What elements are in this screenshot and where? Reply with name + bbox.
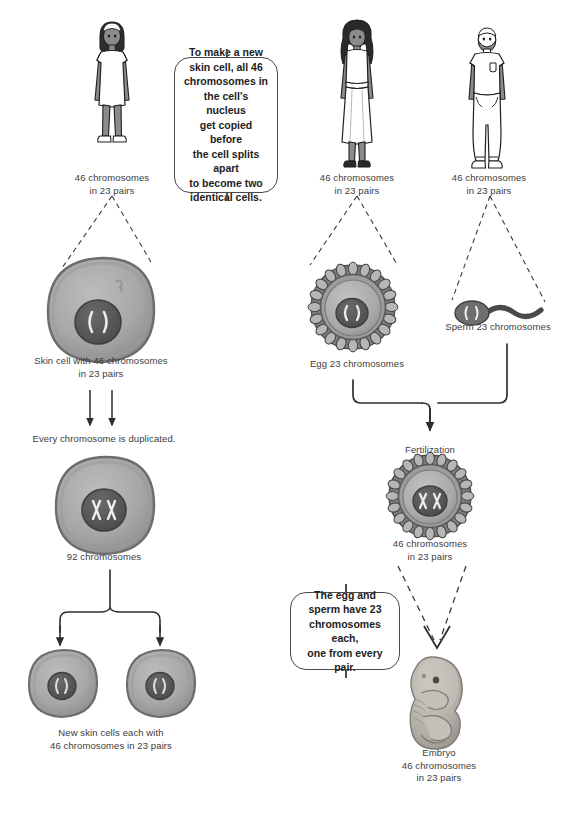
label-new-skin-cells: New skin cells each with 46 chromosomes …: [22, 727, 200, 752]
label-every-chromosome-duplicated: Every chromosome is duplicated.: [4, 433, 204, 446]
callout-mitosis: To make a new skin cell, all 46 chromoso…: [174, 57, 278, 193]
embryo-arrow-tip: [424, 626, 450, 648]
label-92-chromosomes: 92 chromosomes: [42, 551, 166, 564]
zoom-lines-embryo: [398, 566, 466, 640]
label-fertilization: Fertilization: [380, 444, 480, 457]
label-sperm-chromosomes: Sperm 23 chromosomes: [428, 321, 568, 334]
cell-daughter-left: [29, 650, 97, 717]
label-father-chromosomes: 46 chromosomes in 23 pairs: [424, 172, 554, 197]
person-skin-figure: [95, 22, 129, 142]
cell-skin: [48, 258, 154, 362]
label-egg-chromosomes: Egg 23 chromosomes: [292, 358, 422, 371]
fork-cell-division: [60, 570, 160, 645]
label-embryo: Embryo 46 chromosomes in 23 pairs: [374, 747, 504, 785]
zoom-lines-sperm: [452, 196, 545, 302]
bracket-fertilization: [353, 344, 507, 430]
arrows-duplication: [90, 390, 112, 425]
cell-egg: [308, 262, 398, 352]
zoom-lines-egg: [310, 196, 398, 266]
cell-daughter-right: [127, 650, 195, 717]
person-mother-figure: [341, 20, 373, 167]
diagram-canvas: 46 chromosomes in 23 pairs Skin cell wit…: [0, 0, 582, 814]
label-skin-cell: Skin cell with 46 chromosomes in 23 pair…: [12, 355, 190, 380]
cell-duplicated: [56, 457, 154, 554]
label-mother-chromosomes: 46 chromosomes in 23 pairs: [292, 172, 422, 197]
label-zygote-chromosomes: 46 chromosomes in 23 pairs: [368, 538, 492, 563]
embryo-illustration: [410, 657, 462, 749]
person-father-figure: [469, 28, 505, 168]
diagram-artwork: [0, 0, 582, 814]
cell-zygote: [386, 452, 474, 540]
callout-meiosis: The egg and sperm have 23 chromosomes ea…: [290, 592, 400, 670]
label-person-skin-chromosomes: 46 chromosomes in 23 pairs: [42, 172, 182, 197]
